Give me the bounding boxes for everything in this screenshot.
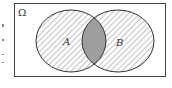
margin-mark — [2, 62, 4, 63]
set-b-label: B — [115, 37, 123, 48]
universe-label: Ω — [18, 7, 26, 18]
set-a-label: A — [62, 36, 70, 47]
margin-mark — [2, 54, 4, 55]
venn-diagram: Ω A B — [0, 0, 172, 88]
margin-mark — [2, 24, 4, 27]
margin-mark — [2, 39, 4, 41]
